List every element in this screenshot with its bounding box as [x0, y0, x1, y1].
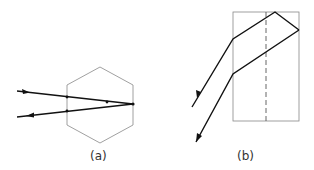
figure-label-a: (a)	[90, 149, 107, 163]
point-dot	[131, 102, 134, 105]
incoming-ray	[17, 91, 133, 104]
arrow-lower-icon	[196, 133, 202, 142]
ray-path-lower	[196, 30, 299, 142]
diagram-canvas	[0, 0, 314, 170]
point-dot	[106, 101, 109, 104]
figure-b	[192, 12, 299, 142]
arrow-out-icon	[26, 113, 34, 118]
point-dot	[66, 110, 69, 113]
outgoing-ray	[17, 104, 133, 117]
ray-path-upper	[192, 12, 299, 107]
point-dot	[66, 96, 69, 99]
arrow-in-icon	[22, 89, 30, 94]
figure-a	[17, 67, 135, 143]
figure-label-b: (b)	[237, 149, 254, 163]
